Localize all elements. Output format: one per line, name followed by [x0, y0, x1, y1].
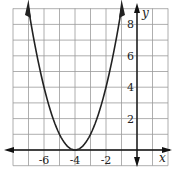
- x-tick-label: -2: [101, 154, 112, 167]
- x-axis-label: x: [159, 151, 166, 165]
- parabola-graph: -6-4-22468 x y: [0, 0, 179, 171]
- x-tick-label: -4: [70, 154, 81, 167]
- axes: [4, 3, 172, 167]
- tick-labels: -6-4-22468: [39, 18, 134, 167]
- y-tick-label: 2: [127, 113, 134, 126]
- y-tick-label: 4: [127, 81, 134, 94]
- y-tick-label: 6: [127, 50, 134, 63]
- y-axis-arrow-up-icon: [134, 3, 140, 13]
- x-tick-label: -6: [39, 154, 50, 167]
- y-axis-label: y: [141, 6, 149, 20]
- grid-lines: [13, 8, 168, 165]
- x-axis-arrow-left-icon: [4, 147, 14, 153]
- y-tick-label: 8: [127, 18, 134, 31]
